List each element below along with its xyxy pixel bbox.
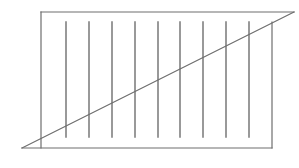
diagram-canvas <box>0 0 299 168</box>
vertical-lines-group <box>66 22 249 137</box>
